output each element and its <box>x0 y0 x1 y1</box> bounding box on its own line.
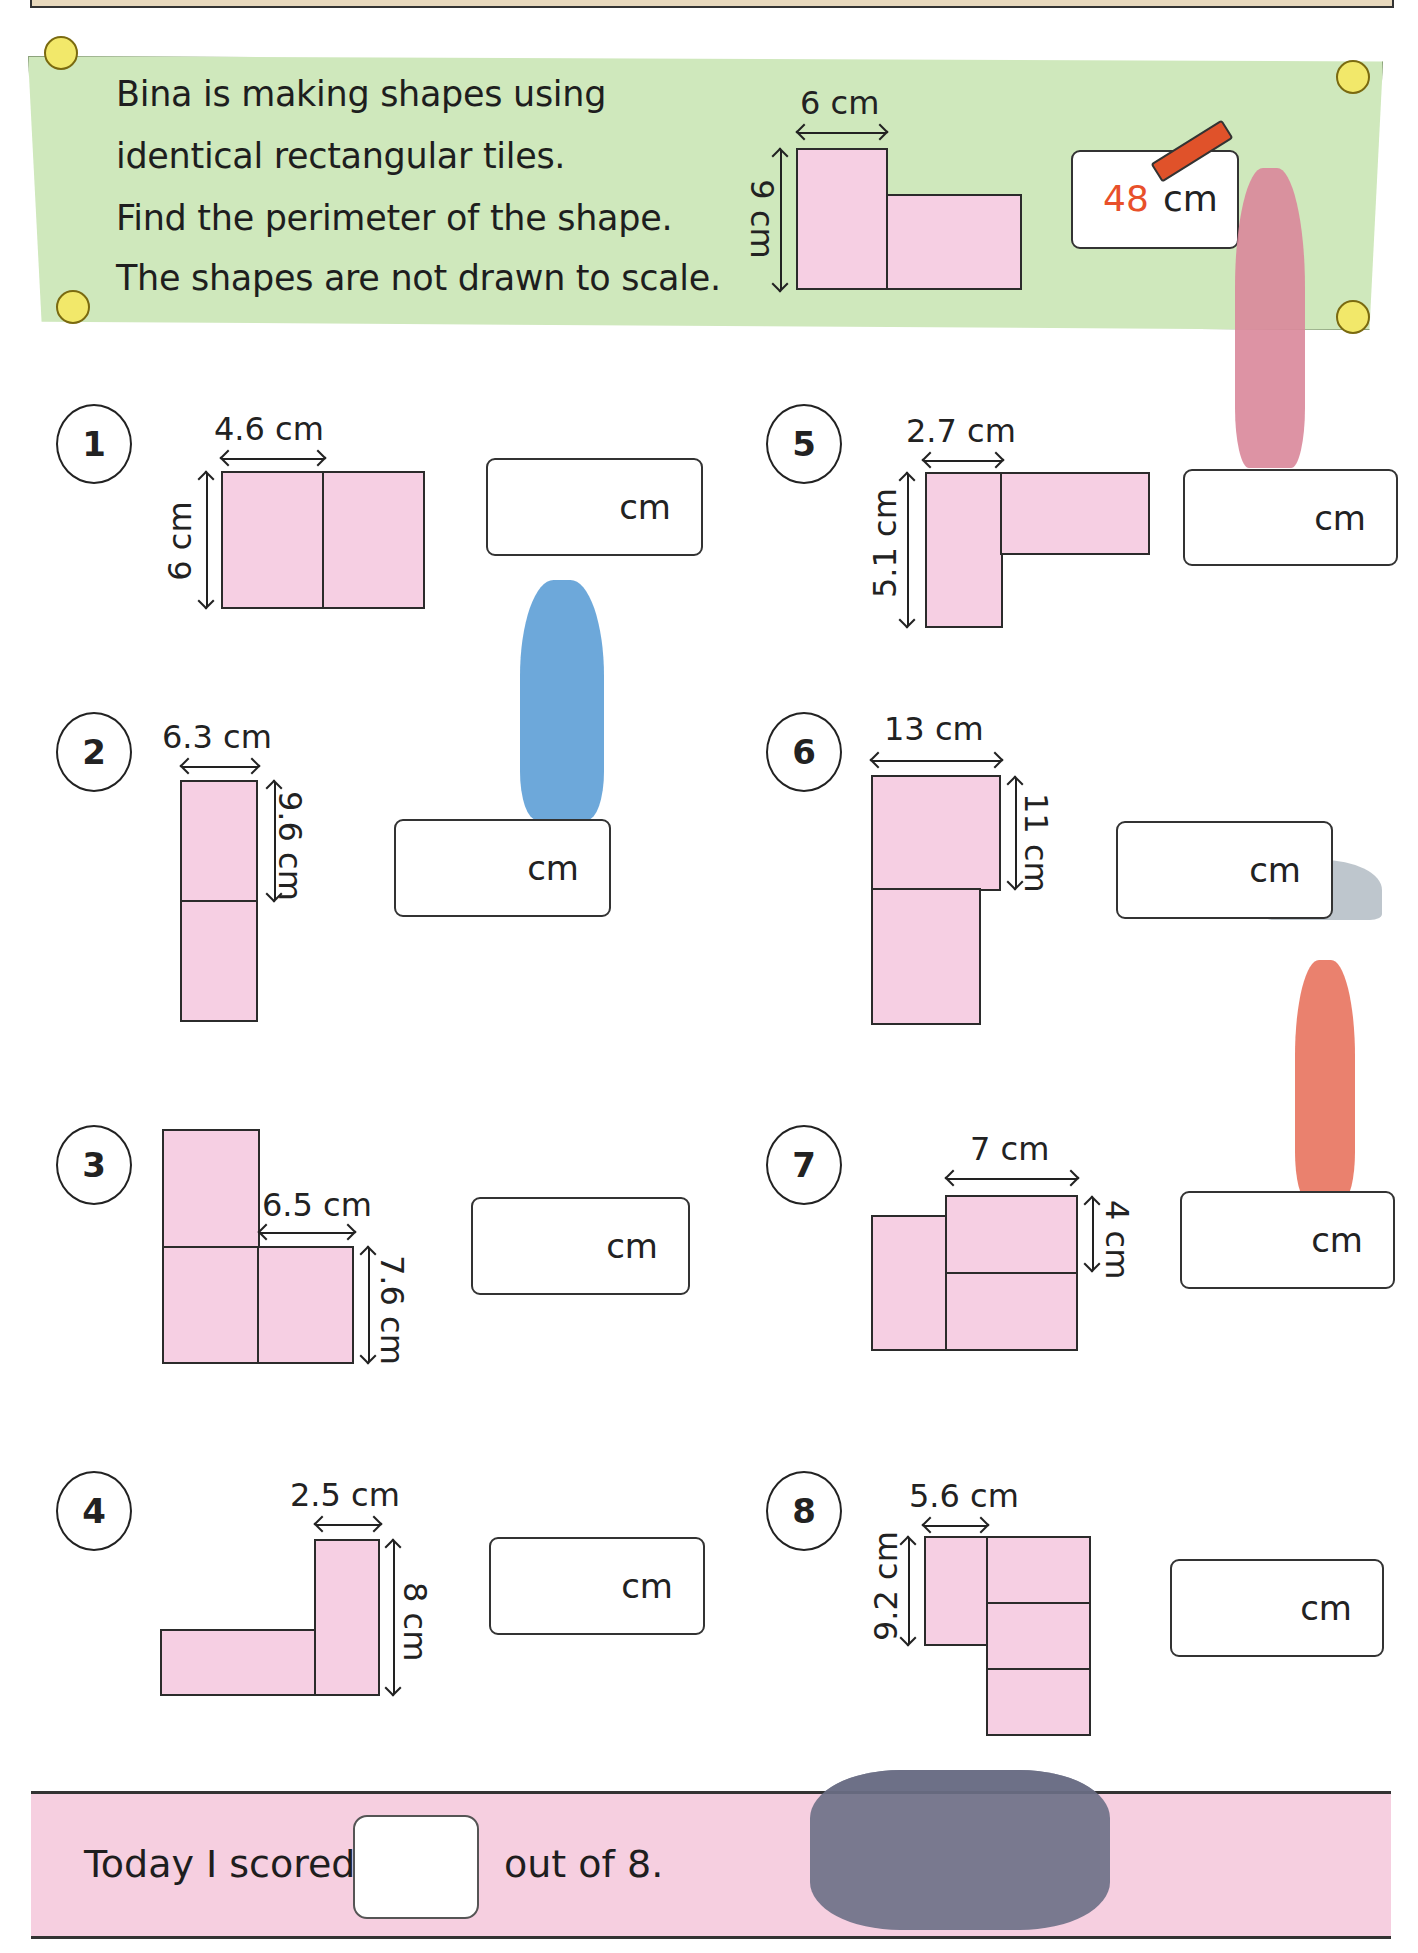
question-number-1: 1 <box>56 404 132 484</box>
height-arrow <box>206 473 208 607</box>
instruction-line: The shapes are not drawn to scale. <box>116 258 721 298</box>
unit-label: cm <box>606 1226 658 1266</box>
q4-height-label: 8 cm <box>396 1582 434 1652</box>
tile <box>924 1536 989 1646</box>
q4-width-label: 2.5 cm <box>290 1476 400 1514</box>
question-number-7: 7 <box>766 1125 842 1205</box>
tile <box>160 1629 317 1696</box>
tile <box>871 1215 948 1351</box>
tile <box>314 1539 380 1696</box>
score-suffix: out of 8. <box>504 1842 663 1886</box>
width-arrow <box>924 1525 987 1527</box>
q1-height-label: 6 cm <box>161 501 199 581</box>
example-height-label: 9 cm <box>743 179 781 259</box>
unit-label: cm <box>621 1566 673 1606</box>
tile <box>796 148 888 290</box>
q4-answer-box[interactable]: cm <box>489 1537 705 1635</box>
tile <box>221 471 325 609</box>
q6-width-label: 13 cm <box>884 710 984 748</box>
width-arrow <box>872 760 1001 762</box>
woman-plate-illustration <box>520 580 604 820</box>
tile <box>945 1195 1078 1275</box>
q3-width-label: 6.5 cm <box>262 1186 372 1224</box>
q7-width-label: 7 cm <box>970 1130 1049 1168</box>
pin-icon <box>44 36 78 70</box>
pin-icon <box>1336 60 1370 94</box>
q5-width-label: 2.7 cm <box>906 412 1016 450</box>
pin-icon <box>1336 300 1370 334</box>
score-input-box[interactable] <box>353 1815 479 1919</box>
tile <box>925 472 1003 628</box>
q1-width-label: 4.6 cm <box>214 410 324 448</box>
score-prefix: Today I scored <box>84 1842 356 1886</box>
tile <box>871 888 981 1025</box>
width-arrow <box>924 460 1002 462</box>
width-arrow <box>798 132 886 134</box>
tile <box>886 194 1022 290</box>
instruction-line: Find the perimeter of the shape. <box>116 198 672 238</box>
question-number-2: 2 <box>56 712 132 792</box>
tile <box>871 775 1001 891</box>
width-arrow <box>222 458 324 460</box>
q2-answer-box[interactable]: cm <box>394 819 611 917</box>
waitress-notepad-illustration <box>1235 168 1305 468</box>
question-number-5: 5 <box>766 404 842 484</box>
instruction-line: identical rectangular tiles. <box>116 136 565 176</box>
tile <box>986 1668 1091 1736</box>
q8-height-label: 9.2 cm <box>867 1541 905 1641</box>
q5-answer-box[interactable]: cm <box>1183 469 1398 566</box>
q7-answer-box[interactable]: cm <box>1180 1191 1395 1289</box>
tile <box>180 780 258 903</box>
pin-icon <box>56 290 90 324</box>
width-arrow <box>316 1524 380 1526</box>
q8-answer-box[interactable]: cm <box>1170 1559 1384 1657</box>
question-number-6: 6 <box>766 712 842 792</box>
unit-label: cm <box>1249 850 1301 890</box>
waitress-tray-illustration <box>1295 960 1355 1200</box>
tile <box>945 1272 1078 1351</box>
question-number-3: 3 <box>56 1125 132 1205</box>
question-number-4: 4 <box>56 1471 132 1551</box>
top-strip <box>30 0 1394 8</box>
tile <box>162 1246 260 1364</box>
height-arrow <box>368 1248 370 1362</box>
example-width-label: 6 cm <box>800 84 879 122</box>
tile <box>322 471 425 609</box>
tile <box>180 900 258 1022</box>
tile <box>1000 472 1150 555</box>
q2-width-label: 6.3 cm <box>162 718 272 756</box>
q2-height-label: 9.6 cm <box>271 791 309 891</box>
q5-height-label: 5.1 cm <box>866 508 904 598</box>
unit-label: cm <box>527 848 579 888</box>
unit-label: cm <box>1314 498 1366 538</box>
tile <box>162 1129 260 1249</box>
q1-answer-box[interactable]: cm <box>486 458 703 556</box>
example-answer-value: 48 <box>1103 178 1149 219</box>
width-arrow <box>260 1232 354 1234</box>
q6-answer-box[interactable]: cm <box>1116 821 1333 919</box>
tile <box>257 1246 354 1364</box>
tile <box>986 1602 1091 1671</box>
unit-label: cm <box>1311 1220 1363 1260</box>
q3-answer-box[interactable]: cm <box>471 1197 690 1295</box>
instruction-line: Bina is making shapes using <box>116 74 606 114</box>
height-arrow <box>393 1541 395 1694</box>
q8-width-label: 5.6 cm <box>909 1477 1019 1515</box>
width-arrow <box>947 1178 1077 1180</box>
q7-height-label: 4 cm <box>1098 1200 1136 1270</box>
tile <box>986 1536 1091 1605</box>
height-arrow <box>907 474 909 626</box>
width-arrow <box>182 766 258 768</box>
q3-height-label: 7.6 cm <box>373 1255 411 1355</box>
height-arrow <box>1092 1198 1094 1270</box>
unit-label: cm <box>1300 1588 1352 1628</box>
unit-label: cm <box>619 487 671 527</box>
height-arrow <box>908 1538 910 1644</box>
question-number-8: 8 <box>766 1471 842 1551</box>
q6-height-label: 11 cm <box>1017 793 1055 873</box>
example-answer-unit: cm <box>1163 178 1218 219</box>
running-waiter-illustration <box>810 1770 1110 1930</box>
